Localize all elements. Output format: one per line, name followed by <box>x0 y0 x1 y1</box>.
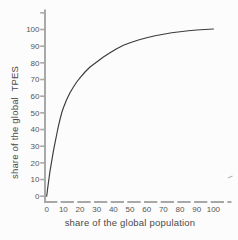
x-tick-label: 50 <box>126 205 135 214</box>
y-tick-label: 0 <box>35 192 40 201</box>
y-tick-label: 60 <box>31 92 40 101</box>
x-tick-label: 30 <box>92 205 101 214</box>
tpes-curve <box>47 29 214 196</box>
x-tick-label: 70 <box>159 205 168 214</box>
x-tick-label: 40 <box>109 205 118 214</box>
x-tick-label: 0 <box>44 205 49 214</box>
stray-mark <box>228 176 233 178</box>
y-tick-label: 90 <box>31 42 40 51</box>
x-tick-label: 80 <box>176 205 185 214</box>
plot-area: 0102030405060708090100010203040506070809… <box>0 0 238 240</box>
y-tick-label: 100 <box>26 25 40 34</box>
x-tick-label: 20 <box>76 205 85 214</box>
energy-population-chart: 0102030405060708090100010203040506070809… <box>0 0 238 240</box>
y-tick-label: 80 <box>31 59 40 68</box>
y-axis-title: share of the global TPES <box>9 48 22 198</box>
x-axis-title: share of the global population <box>26 217 234 228</box>
y-tick-label: 70 <box>31 75 40 84</box>
x-tick-label: 100 <box>207 205 221 214</box>
x-tick-label: 60 <box>142 205 151 214</box>
x-tick-label: 90 <box>192 205 201 214</box>
y-tick-label: 50 <box>31 109 40 118</box>
x-tick-label: 10 <box>59 205 68 214</box>
y-tick-label: 30 <box>31 142 40 151</box>
y-tick-label: 40 <box>31 125 40 134</box>
y-tick-label: 10 <box>31 175 40 184</box>
y-tick-label: 20 <box>31 159 40 168</box>
